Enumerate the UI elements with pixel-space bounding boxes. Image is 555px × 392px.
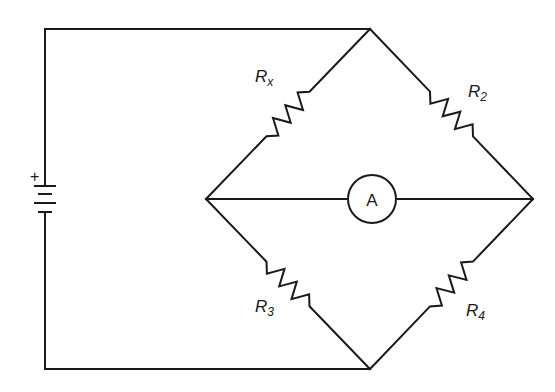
bottom-wire (45, 212, 370, 369)
label-r3: R3 (255, 297, 274, 319)
ammeter-label: A (366, 191, 378, 210)
label-r4: R4 (466, 301, 485, 323)
resistor-r3-icon (206, 199, 370, 369)
resistor-rx-icon (206, 29, 370, 199)
wheatstone-bridge-diagram: + A Rx R2 R3 R4 (0, 0, 555, 392)
resistor-r4-icon (370, 199, 533, 369)
resistor-r2-icon (370, 29, 533, 199)
ammeter-branch: A (206, 175, 533, 223)
label-rx: Rx (255, 67, 274, 89)
label-r2: R2 (468, 82, 487, 104)
battery-icon (34, 186, 56, 212)
battery-positive-sign: + (30, 168, 39, 185)
top-wire (45, 29, 370, 186)
